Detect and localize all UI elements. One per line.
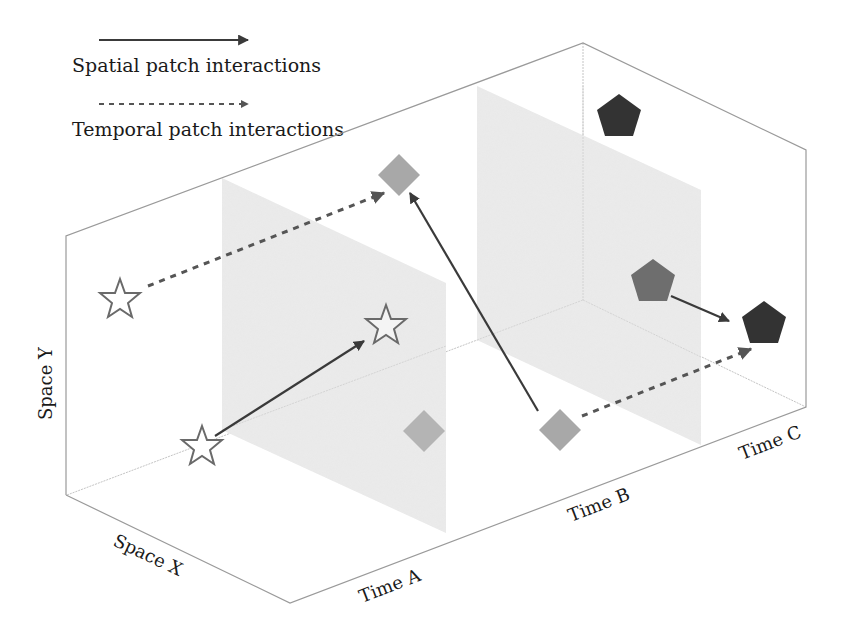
time-slice-a	[222, 178, 446, 533]
legend: Spatial patch interactions Temporal patc…	[72, 40, 344, 140]
time-slice-b	[477, 86, 701, 445]
axis-label-space-x: Space X	[110, 530, 186, 580]
diamond-patch	[539, 409, 581, 451]
axis-label-time-c: Time C	[736, 421, 804, 464]
star-patch	[182, 426, 222, 464]
star-patch	[100, 279, 140, 317]
legend-spatial-label: Spatial patch interactions	[72, 54, 321, 76]
pentagon-patch-dark	[742, 301, 786, 343]
axis-label-space-y: Space Y	[35, 346, 56, 420]
legend-temporal-label: Temporal patch interactions	[72, 118, 344, 140]
axis-label-time-b: Time B	[565, 483, 633, 526]
diamond-patch	[378, 154, 420, 196]
pentagon-patch-dark	[597, 94, 641, 136]
axis-label-time-a: Time A	[356, 564, 424, 607]
spatio-temporal-diagram: Spatial patch interactions Temporal patc…	[0, 0, 849, 631]
